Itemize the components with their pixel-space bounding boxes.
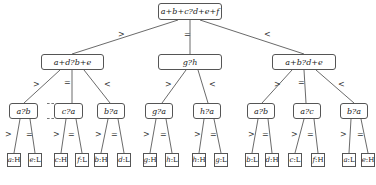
edge-label-gt: > bbox=[274, 80, 281, 89]
edge-label-lt: < bbox=[264, 30, 271, 39]
root-node: a+b+c?d+e+f bbox=[158, 3, 222, 20]
level2-node-middle: g?h bbox=[158, 54, 222, 70]
leaf-val: H bbox=[368, 156, 374, 164]
edge-label-eq: = bbox=[262, 130, 269, 139]
level3-node: a?c bbox=[293, 103, 321, 119]
leaf-node: f:H bbox=[311, 153, 325, 167]
leaf-node: d:L bbox=[117, 153, 131, 167]
edge-label-eq: = bbox=[298, 78, 305, 87]
edge-label-gt: > bbox=[5, 130, 12, 139]
leaf-node: a:H bbox=[7, 153, 21, 167]
edge-label-eq: = bbox=[64, 78, 71, 87]
leaf-val: H bbox=[317, 156, 323, 164]
edge-label-gt: > bbox=[340, 130, 347, 139]
leaf-node: b:H bbox=[94, 153, 108, 167]
leaf-val: H bbox=[272, 156, 278, 164]
edge-label-lt: < bbox=[209, 80, 216, 89]
edge-label-gt: > bbox=[248, 130, 255, 139]
leaf-node: h:L bbox=[165, 153, 179, 167]
edge-label-eq: = bbox=[111, 130, 118, 139]
leaf-node: f:L bbox=[75, 153, 89, 167]
edge-label-gt: > bbox=[53, 130, 60, 139]
edge-label-eq: = bbox=[210, 130, 217, 139]
leaf-val: H bbox=[14, 156, 20, 164]
edge-label-eq: = bbox=[307, 130, 314, 139]
level3-node: c?a bbox=[54, 103, 83, 119]
leaf-val: L bbox=[253, 156, 258, 164]
edge-label-eq: = bbox=[26, 130, 33, 139]
leaf-node: b:L bbox=[245, 153, 259, 167]
leaf-node: c:L bbox=[288, 153, 302, 167]
leaf-val: L bbox=[173, 156, 178, 164]
leaf-node: g:L bbox=[214, 153, 228, 167]
edge-label-lt: < bbox=[338, 80, 345, 89]
leaf-val: L bbox=[82, 156, 87, 164]
edge-label-gt: > bbox=[165, 80, 172, 89]
edge-label-gt: > bbox=[194, 130, 201, 139]
edge-label-eq: = bbox=[357, 130, 364, 139]
leaf-node: g:H bbox=[143, 153, 157, 167]
level3-node: b?a bbox=[97, 103, 125, 119]
leaf-val: H bbox=[199, 156, 205, 164]
leaf-val: L bbox=[125, 156, 130, 164]
leaf-val: H bbox=[150, 156, 156, 164]
level3-node: h?a bbox=[193, 103, 221, 119]
leaf-val: H bbox=[61, 156, 67, 164]
edge-label-gt: > bbox=[33, 80, 40, 89]
level2-node-right: a+b?d+e bbox=[272, 54, 336, 70]
edge-label-gt: > bbox=[143, 130, 150, 139]
dashed-bracket bbox=[47, 103, 54, 119]
edge-label-lt: < bbox=[104, 80, 111, 89]
leaf-node: e:L bbox=[28, 153, 42, 167]
edge-label-eq: = bbox=[68, 130, 75, 139]
leaf-node: h:H bbox=[192, 153, 206, 167]
decision-tree-diagram: a+b+c?d+e+f a+d?b+e g?h a+b?d+e > = < a?… bbox=[0, 0, 376, 185]
edge-label-gt: > bbox=[95, 130, 102, 139]
level3-node: b?a bbox=[340, 103, 368, 119]
leaf-val: L bbox=[350, 156, 355, 164]
leaf-val: L bbox=[36, 156, 41, 164]
level2-node-left: a+d?b+e bbox=[41, 54, 104, 70]
level3-node: a?b bbox=[9, 103, 38, 119]
edge-label-eq: = bbox=[160, 130, 167, 139]
leaf-node: e:H bbox=[361, 153, 375, 167]
edge-label-gt: > bbox=[291, 130, 298, 139]
edge-label-eq: = bbox=[184, 30, 191, 39]
level3-node: g?a bbox=[145, 103, 173, 119]
leaf-val: L bbox=[222, 156, 227, 164]
level3-node: a?b bbox=[247, 103, 275, 119]
edge-label-gt: > bbox=[118, 30, 125, 39]
leaf-node: d:H bbox=[265, 153, 279, 167]
leaf-node: c:H bbox=[54, 153, 68, 167]
leaf-val: H bbox=[101, 156, 107, 164]
leaf-node: a:L bbox=[342, 153, 356, 167]
leaf-val: L bbox=[296, 156, 301, 164]
